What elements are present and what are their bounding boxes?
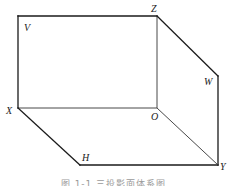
- figure-caption: 图 1-1 三投影面体系图: [0, 177, 227, 186]
- h-plane: [18, 108, 218, 165]
- label-w: W: [204, 76, 214, 87]
- label-v: V: [24, 22, 32, 33]
- label-y: Y: [220, 161, 227, 172]
- v-plane: [18, 16, 157, 108]
- label-o: O: [151, 111, 158, 122]
- w-plane: [157, 16, 218, 165]
- projection-diagram: V Z W X O H Y: [0, 0, 227, 186]
- label-x: X: [5, 105, 13, 116]
- label-h: H: [81, 152, 90, 163]
- label-z: Z: [151, 3, 157, 14]
